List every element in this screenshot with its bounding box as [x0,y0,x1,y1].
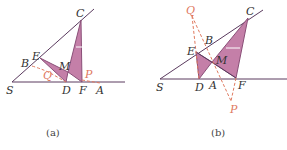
label-a-b: A [208,79,217,92]
label-s: S [6,84,14,97]
figure-a: C E B M Q P S D F A (a) [6,7,125,138]
label-b-b: B [204,34,213,47]
label-a: A [95,84,104,97]
label-p-b: P [229,103,238,116]
label-f-b: F [237,79,246,92]
label-c-b: C [246,5,255,18]
caption-a: (a) [46,127,60,138]
geometry-diagram: C E B M Q P S D F A (a) Q C B E M [0,0,287,150]
label-s-b: S [156,81,164,94]
label-e: E [31,50,40,63]
label-f: F [78,84,87,97]
figure-b: Q C B E M S D A F P (b) [156,4,287,138]
caption-b: (b) [211,127,225,138]
label-e-b: E [186,45,195,58]
label-m-b: M [215,54,228,67]
label-b: B [20,57,29,70]
dashed-fp-b [231,78,236,101]
label-p: P [84,68,93,81]
label-q-b: Q [186,4,195,17]
label-d-b: D [194,81,204,94]
label-m: M [58,60,71,73]
label-d: D [61,84,71,97]
label-q: Q [43,69,52,82]
triangle-emd-b [196,52,212,79]
label-c: C [76,7,85,20]
